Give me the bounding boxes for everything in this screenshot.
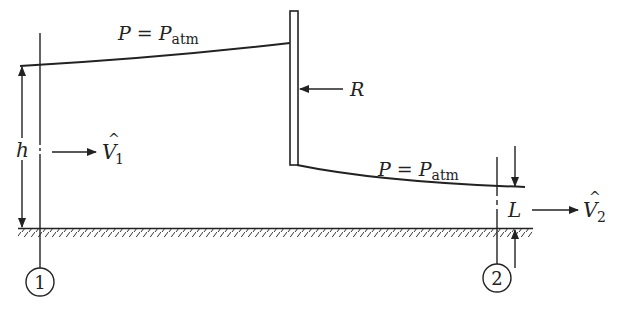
svg-text:^: ^ xyxy=(108,131,120,147)
svg-text:1: 1 xyxy=(115,151,124,167)
sluice-gate-diagram: P = Patm R P = Patm 1 h V ^ 1 2 L xyxy=(0,0,617,311)
upstream-free-surface xyxy=(20,43,290,66)
upstream-depth-label: h xyxy=(16,138,29,162)
svg-text:^: ^ xyxy=(589,189,601,205)
downstream-velocity-label: V ^ 2 xyxy=(583,189,606,225)
ground-hatching xyxy=(18,229,533,237)
downstream-depth-label: L xyxy=(507,198,521,222)
upstream-velocity-label: V ^ 1 xyxy=(102,131,124,167)
channel-bed xyxy=(18,229,533,238)
downstream-pressure-label: P = Patm xyxy=(377,158,459,183)
section-2-label: 2 xyxy=(491,268,502,289)
sluice-gate xyxy=(290,11,298,165)
upstream-pressure-label: P = Patm xyxy=(117,22,199,47)
section-1-label: 1 xyxy=(34,272,45,293)
svg-text:2: 2 xyxy=(597,209,606,225)
gate-force-label: R xyxy=(349,78,364,100)
